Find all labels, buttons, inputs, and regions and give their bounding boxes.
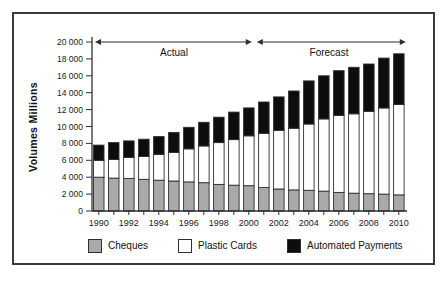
- bar-segment-cheques-1992: [124, 179, 135, 212]
- y-tick-label: 14 000: [57, 88, 83, 98]
- bar-segment-automated-payments-1992: [124, 141, 135, 158]
- bar-segment-cheques-2007: [349, 193, 360, 211]
- y-tick-label: 6 000: [62, 155, 84, 165]
- bar-segment-cheques-2009: [379, 194, 390, 211]
- annotation-label-actual: Actual: [160, 47, 188, 58]
- y-tick-label: 8 000: [62, 138, 84, 148]
- bar-segment-plastic-cards-1994: [154, 154, 165, 180]
- bar-segment-plastic-cards-2006: [334, 116, 345, 193]
- bar-segment-automated-payments-2000: [244, 108, 255, 136]
- bar-segment-automated-payments-1999: [229, 112, 240, 140]
- bar-segment-cheques-2004: [304, 190, 315, 211]
- bar-segment-cheques-2002: [274, 189, 285, 211]
- bar-segment-automated-payments-2005: [319, 76, 330, 119]
- x-tick-label: 1996: [179, 218, 199, 228]
- x-tick-label: 1990: [89, 218, 109, 228]
- bar-segment-cheques-1990: [94, 177, 105, 211]
- bar-segment-automated-payments-2008: [364, 64, 375, 111]
- bar-segment-plastic-cards-1997: [199, 146, 210, 183]
- legend-swatch: [287, 239, 301, 253]
- bar-segment-automated-payments-1995: [169, 132, 180, 152]
- bar-segment-plastic-cards-2008: [364, 111, 375, 193]
- arrow-head-left: [257, 39, 263, 45]
- bar-segment-cheques-1993: [139, 179, 150, 211]
- bar-segment-automated-payments-1993: [139, 139, 150, 156]
- bar-segment-automated-payments-2009: [379, 58, 390, 108]
- bar-segment-plastic-cards-2002: [274, 130, 285, 189]
- bar-segment-cheques-2005: [319, 191, 330, 211]
- bar-segment-automated-payments-2006: [334, 71, 345, 116]
- y-tick-label: 2 000: [62, 189, 84, 199]
- legend-item-plastic-cards: Plastic Cards: [178, 239, 257, 252]
- x-tick-label: 1998: [209, 218, 229, 228]
- arrow-head-left: [95, 39, 101, 45]
- bar-segment-cheques-1991: [109, 178, 120, 211]
- bar-segment-cheques-1999: [229, 185, 240, 211]
- y-axis-title: Volumes Millions: [27, 82, 39, 172]
- y-tick-label: 10 000: [57, 122, 83, 132]
- bar-segment-cheques-2001: [259, 187, 270, 211]
- bar-segment-plastic-cards-1991: [109, 160, 120, 179]
- y-tick-label: 12 000: [57, 105, 83, 115]
- x-tick-label: 2004: [299, 218, 319, 228]
- y-tick-label: 16 000: [57, 71, 83, 81]
- x-tick-label: 2002: [269, 218, 289, 228]
- bar-segment-plastic-cards-2007: [349, 114, 360, 193]
- bar-segment-plastic-cards-2005: [319, 119, 330, 191]
- bar-segment-plastic-cards-1992: [124, 157, 135, 178]
- legend-swatch: [178, 239, 192, 253]
- bar-segment-automated-payments-1998: [214, 117, 225, 142]
- legend-label: Automated Payments: [307, 239, 403, 252]
- bar-segment-plastic-cards-2003: [289, 128, 300, 190]
- bar-segment-plastic-cards-1993: [139, 157, 150, 180]
- bar-segment-automated-payments-1997: [199, 122, 210, 146]
- bar-segment-automated-payments-1996: [184, 127, 195, 149]
- bar-segment-automated-payments-2001: [259, 102, 270, 133]
- legend-item-automated-payments: Automated Payments: [287, 239, 403, 252]
- x-tick-label: 1992: [119, 218, 139, 228]
- bar-segment-plastic-cards-1998: [214, 143, 225, 185]
- bar-segment-plastic-cards-1996: [184, 149, 195, 182]
- bar-segment-cheques-1996: [184, 182, 195, 211]
- bar-segment-automated-payments-1991: [109, 143, 120, 160]
- bar-segment-cheques-2008: [364, 194, 375, 211]
- x-tick-label: 2010: [389, 218, 409, 228]
- bar-segment-cheques-1998: [214, 184, 225, 211]
- x-tick-label: 2006: [329, 218, 349, 228]
- x-tick-label: 2008: [359, 218, 379, 228]
- bar-segment-automated-payments-2004: [304, 81, 315, 124]
- legend-item-cheques: Cheques: [88, 239, 148, 252]
- bar-segment-cheques-1995: [169, 181, 180, 211]
- bar-segment-plastic-cards-2000: [244, 136, 255, 186]
- bar-segment-cheques-1994: [154, 180, 165, 211]
- x-tick-label: 1994: [149, 218, 169, 228]
- bar-segment-plastic-cards-2009: [379, 108, 390, 194]
- arrow-head-right: [400, 39, 406, 45]
- x-tick-label: 2000: [239, 218, 259, 228]
- bar-segment-automated-payments-2010: [394, 54, 405, 105]
- bar-segment-cheques-2006: [334, 192, 345, 211]
- bar-segment-cheques-2010: [394, 195, 405, 211]
- arrow-head-right: [246, 39, 252, 45]
- y-tick-label: 0: [78, 206, 83, 216]
- bar-segment-plastic-cards-2004: [304, 124, 315, 190]
- bar-segment-plastic-cards-1999: [229, 140, 240, 186]
- y-tick-label: 20 000: [57, 37, 83, 47]
- bar-segment-plastic-cards-2001: [259, 133, 270, 187]
- y-tick-label: 18 000: [57, 54, 83, 64]
- bar-segment-automated-payments-1994: [154, 137, 165, 155]
- bar-segment-automated-payments-2007: [349, 67, 360, 114]
- bar-segment-plastic-cards-1990: [94, 160, 105, 177]
- legend-swatch: [88, 239, 102, 253]
- bar-segment-cheques-2003: [289, 190, 300, 211]
- bar-segment-cheques-1997: [199, 183, 210, 211]
- y-tick-label: 4 000: [62, 172, 84, 182]
- bar-segment-plastic-cards-1995: [169, 152, 180, 181]
- bar-segment-automated-payments-2003: [289, 91, 300, 128]
- figure-canvas: 02 0004 0006 0008 00010 00012 00014 0001…: [0, 0, 447, 284]
- bar-segment-plastic-cards-2010: [394, 105, 405, 195]
- annotation-label-forecast: Forecast: [310, 47, 349, 58]
- bar-segment-automated-payments-1990: [94, 145, 105, 160]
- bar-segment-automated-payments-2002: [274, 97, 285, 130]
- bar-segment-cheques-2000: [244, 186, 255, 211]
